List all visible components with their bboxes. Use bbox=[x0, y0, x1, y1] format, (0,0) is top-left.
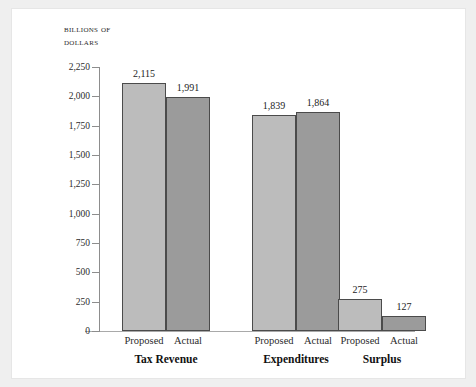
y-axis-tick bbox=[92, 302, 100, 303]
y-axis-line bbox=[99, 67, 100, 332]
y-axis-tick bbox=[92, 184, 100, 185]
y-axis-tick-label: 1,750 bbox=[54, 121, 90, 131]
y-axis-tick bbox=[92, 214, 100, 215]
y-axis-tick-label: 750 bbox=[54, 238, 90, 248]
bar-value-label: 2,115 bbox=[133, 68, 155, 79]
bar-value-label: 127 bbox=[397, 301, 412, 312]
page-background: Billions of dollars 02505007501,0001,250… bbox=[0, 0, 476, 387]
bar-value-label: 275 bbox=[353, 284, 368, 295]
series-label-proposed: Proposed bbox=[340, 335, 379, 346]
series-label-proposed: Proposed bbox=[124, 335, 163, 346]
category-label-tax-revenue: Tax Revenue bbox=[134, 353, 197, 365]
series-label-proposed: Proposed bbox=[254, 335, 293, 346]
series-label-actual: Actual bbox=[304, 335, 332, 346]
y-axis-tick-label: 1,250 bbox=[54, 179, 90, 189]
y-axis-tick bbox=[92, 331, 100, 332]
y-axis-tick bbox=[92, 272, 100, 273]
bar-tax-revenue-actual bbox=[166, 97, 210, 331]
y-axis-tick-label: 2,000 bbox=[54, 91, 90, 101]
bar-expenditures-proposed bbox=[252, 115, 296, 331]
bar-surplus-proposed bbox=[338, 299, 382, 331]
category-label-expenditures: Expenditures bbox=[263, 353, 329, 365]
bar-value-label: 1,839 bbox=[263, 100, 286, 111]
bar-tax-revenue-proposed bbox=[122, 83, 166, 331]
y-axis-tick bbox=[92, 96, 100, 97]
y-axis-unit-label-line2: dollars bbox=[64, 36, 111, 49]
y-axis-tick-label: 2,250 bbox=[54, 62, 90, 72]
bar-surplus-actual bbox=[382, 316, 426, 331]
bar-value-label: 1,864 bbox=[307, 97, 330, 108]
y-axis-tick-label: 0 bbox=[54, 326, 90, 336]
bar-value-label: 1,991 bbox=[177, 82, 200, 93]
y-axis-tick bbox=[92, 155, 100, 156]
y-axis-tick bbox=[92, 67, 100, 68]
y-axis-tick-label: 1,000 bbox=[54, 209, 90, 219]
chart-panel: Billions of dollars 02505007501,0001,250… bbox=[11, 8, 466, 379]
bar-chart: Billions of dollars 02505007501,0001,250… bbox=[12, 9, 467, 380]
y-axis-unit-label: Billions of dollars bbox=[64, 23, 111, 49]
y-axis-unit-label-line1: Billions of bbox=[64, 23, 111, 36]
series-label-actual: Actual bbox=[174, 335, 202, 346]
y-axis-tick bbox=[92, 243, 100, 244]
y-axis-tick-label: 500 bbox=[54, 267, 90, 277]
bar-expenditures-actual bbox=[296, 112, 340, 331]
y-axis-tick-label: 250 bbox=[54, 297, 90, 307]
series-label-actual: Actual bbox=[390, 335, 418, 346]
y-axis-tick bbox=[92, 126, 100, 127]
y-axis-tick-label: 1,500 bbox=[54, 150, 90, 160]
category-label-surplus: Surplus bbox=[363, 353, 401, 365]
x-axis-baseline bbox=[85, 331, 415, 332]
